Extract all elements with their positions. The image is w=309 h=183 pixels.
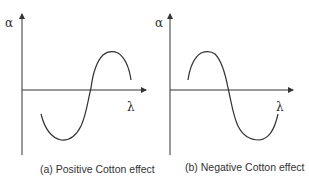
panel-b bbox=[170, 14, 293, 155]
lambda-label-b: λ bbox=[276, 100, 284, 114]
lambda-label-a: λ bbox=[127, 100, 135, 114]
curve-positive bbox=[41, 52, 131, 140]
caption-b: (b) Negative Cotton effect bbox=[185, 161, 304, 173]
alpha-label-b: α bbox=[155, 16, 163, 30]
alpha-label-a: α bbox=[5, 16, 13, 30]
curve-negative bbox=[188, 52, 278, 140]
panel-a bbox=[22, 14, 146, 155]
caption-a: (a) Positive Cotton effect bbox=[40, 163, 155, 175]
